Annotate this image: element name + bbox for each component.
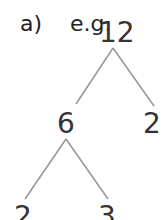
tree-node-left: 6	[57, 110, 75, 138]
branch-12-to-6	[76, 48, 113, 104]
branch-6-to-2	[25, 139, 66, 199]
tree-node-right: 2	[143, 110, 161, 138]
tree-node-root: 12	[99, 19, 135, 47]
tree-node-left-right: 3	[98, 203, 116, 220]
branch-6-to-3	[66, 139, 108, 199]
branch-12-to-2	[113, 48, 154, 106]
factor-tree-branches	[0, 0, 167, 220]
tree-node-left-left: 2	[14, 203, 32, 220]
